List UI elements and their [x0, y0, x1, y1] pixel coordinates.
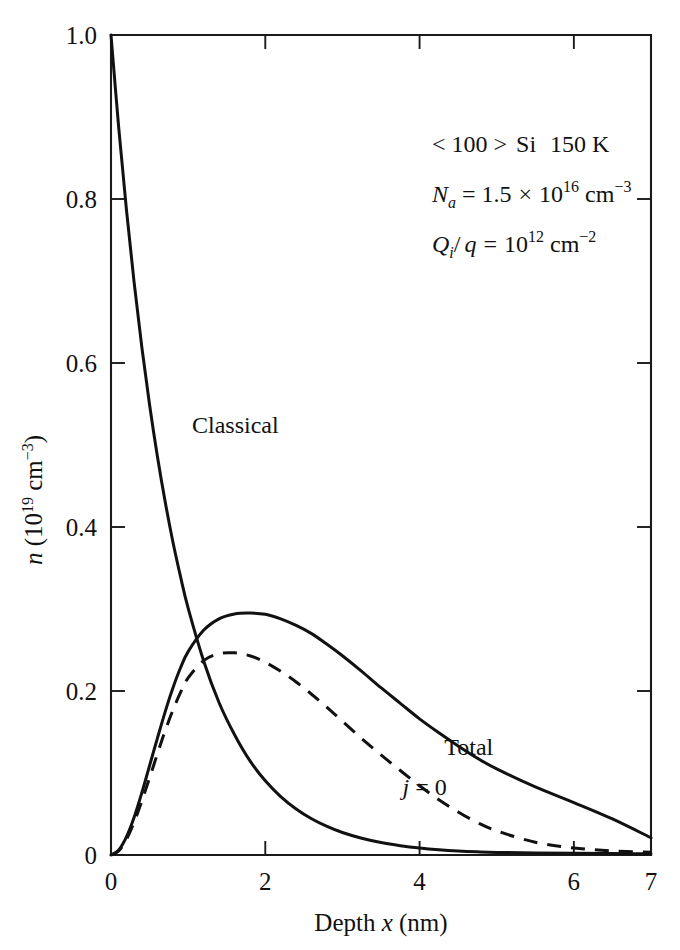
y-tick-label: 0 — [85, 842, 98, 869]
curve-label-classical: Classical — [192, 412, 279, 438]
y-tick-label: 0.6 — [66, 350, 97, 377]
figure-container: 00.20.40.60.81.0 02467 ClassicalTotalj =… — [0, 0, 680, 950]
y-tick-label: 0.8 — [66, 186, 97, 213]
y-tick-label: 1.0 — [66, 22, 97, 49]
y-tick-label: 0.4 — [66, 514, 98, 541]
curve-j-0 — [111, 653, 651, 855]
x-tick-label: 0 — [105, 868, 118, 895]
y-axis-ticks-left — [111, 199, 125, 691]
y-tick-label: 0.2 — [66, 678, 97, 705]
annotation-inversion-charge: Qi/q=1012cm−2 — [432, 228, 596, 261]
annotation-material: < 100 >Si150 K — [432, 131, 610, 157]
annotation-block: < 100 >Si150 K Na=1.5×1016cm−3 Qi/q=1012… — [431, 131, 631, 261]
x-axis-title: Depth x (nm) — [314, 909, 447, 937]
x-tick-label: 2 — [259, 868, 272, 895]
x-axis-ticks-top — [265, 35, 574, 49]
y-axis-ticks-right — [637, 199, 651, 691]
curve-label-j-zero: j = 0 — [400, 774, 447, 800]
x-tick-label: 6 — [568, 868, 581, 895]
curve-classical — [111, 35, 651, 854]
y-axis-title: n (1019 cm−3) — [19, 435, 48, 565]
annotation-acceptor-density: Na=1.5×1016cm−3 — [431, 178, 631, 211]
x-tick-label: 4 — [413, 868, 426, 895]
plot-frame — [111, 35, 651, 855]
x-tick-label: 7 — [645, 868, 658, 895]
curve-label-total: Total — [444, 734, 493, 760]
y-axis-tick-labels: 00.20.40.60.81.0 — [66, 22, 98, 869]
curve-total — [111, 613, 651, 855]
x-axis-tick-labels: 02467 — [105, 868, 658, 895]
data-curves — [111, 35, 651, 855]
density-depth-chart: 00.20.40.60.81.0 02467 ClassicalTotalj =… — [0, 0, 680, 950]
